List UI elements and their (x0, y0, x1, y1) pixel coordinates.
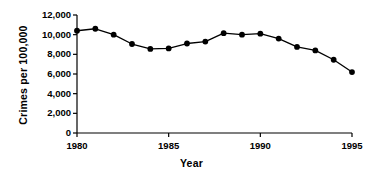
y-axis-tick-label: 10,000 (25, 29, 71, 40)
data-point (349, 69, 355, 75)
y-axis-tick-label: 12,000 (25, 9, 71, 20)
y-axis-tick-label: 2,000 (25, 107, 71, 118)
data-point (312, 48, 318, 54)
x-axis-tick-label: 1985 (147, 140, 191, 151)
data-point (221, 30, 227, 36)
y-axis-tick-label: 6,000 (25, 68, 71, 79)
data-point (239, 32, 245, 38)
data-point (257, 31, 263, 37)
x-axis-tick-label: 1995 (330, 140, 374, 151)
y-axis-tick-label: 0 (25, 127, 71, 138)
y-axis-tick-label: 8,000 (25, 48, 71, 59)
data-point (331, 57, 337, 63)
x-axis-tick-label: 1990 (238, 140, 282, 151)
data-point (74, 28, 80, 34)
data-point (92, 26, 98, 32)
data-point (184, 41, 190, 47)
data-point (276, 36, 282, 42)
data-point (202, 39, 208, 45)
data-point (111, 32, 117, 38)
data-point (294, 44, 300, 50)
data-line (77, 29, 352, 72)
x-axis-title: Year (0, 157, 383, 169)
data-point (147, 46, 153, 52)
crime-rate-line-chart: Crimes per 100,000 02,0004,0006,0008,000… (0, 0, 383, 178)
y-axis-tick-label: 4,000 (25, 88, 71, 99)
data-point-markers (74, 26, 355, 75)
x-axis-tick-label: 1980 (55, 140, 99, 151)
x-axis-ticks (77, 133, 352, 137)
data-point (166, 46, 172, 52)
data-point (129, 41, 135, 47)
